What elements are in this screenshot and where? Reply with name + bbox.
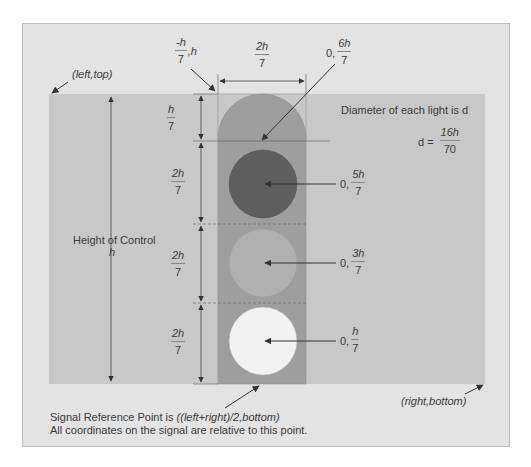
height-label: Height of Control [73,234,156,246]
pointer-reference [225,386,259,408]
pointer-left-top [52,82,68,93]
pointer-top-left-signal [191,69,215,91]
segment-fraction-1: h 7 [167,103,175,132]
segment-fraction-4: 2h 7 [171,327,185,356]
point-label-h: 0, h 7 [340,325,359,354]
point-label-6h: 0, 6h 7 [326,37,351,66]
label-left-top: (left,top) [72,68,112,80]
segment-fraction-3: 2h 7 [171,249,185,278]
diameter-note: Diameter of each light is d [341,104,468,116]
point-label-5h: 0, 5h 7 [340,168,365,197]
label-right-bottom: (right,bottom) [401,395,466,407]
segment-fraction-2: 2h 7 [171,167,185,196]
pointer-right-bottom [465,385,483,394]
height-variable: h [109,246,115,258]
top-left-coordinate: -h 7 ,h [175,36,197,65]
point-label-3h: 0, 3h 7 [340,247,365,276]
width-fraction: 2h 7 [255,40,269,69]
diameter-equation: d = 16h 70 [418,126,460,155]
footer-note-line: All coordinates on the signal are relati… [50,424,307,436]
footer-reference-line: Signal Reference Point is ((left+right)/… [50,411,280,423]
